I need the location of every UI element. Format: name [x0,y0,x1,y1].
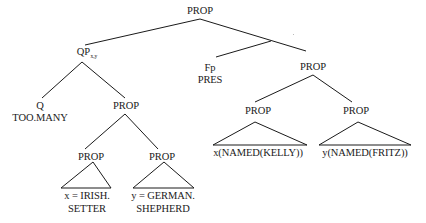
node-fp: Fp [205,62,216,74]
node-restrictor-right: PROP [149,151,175,163]
edge-root-qp [85,19,200,45]
edge-prop-right [125,114,158,149]
restrictor-right-line1: y = GERMAN. [131,190,194,202]
node-qp-subscript: x,y [91,53,98,59]
node-q-value: TOO.MANY [12,112,67,124]
triangle-fritz [319,122,411,145]
edge-root-fp [216,41,271,57]
node-scope-prop: PROP [300,61,326,73]
edge-qp-q [42,62,82,98]
edge-scope-left [255,75,313,102]
triangle-german-shepherd [133,162,194,188]
node-qp-label: QP [77,46,90,57]
scope-right-content: y(NAMED(FRITZ)) [322,147,407,159]
triangle-kelly [213,122,307,145]
restrictor-left-line2: SETTER [68,203,106,215]
restrictor-right-line2: SHEPHERD [136,203,189,215]
restrictor-left-line1: x = IRISH. [64,190,109,202]
edge-scope-right [313,75,352,102]
node-scope-right: PROP [343,105,369,117]
edge-prop-left [85,114,125,149]
scope-left-content: x(NAMED(KELLY)) [213,147,303,159]
node-fp-value: PRES [198,74,223,86]
edge-qp-prop [82,62,125,98]
node-qp-prop: PROP [113,100,139,112]
artifact-dot [293,34,294,35]
node-root-prop: PROP [187,5,213,17]
node-scope-left: PROP [245,105,271,117]
triangle-irish-setter [61,162,111,188]
node-restrictor-left: PROP [78,151,104,163]
node-q: Q [36,100,43,112]
node-qp: QPx,y [77,46,97,62]
